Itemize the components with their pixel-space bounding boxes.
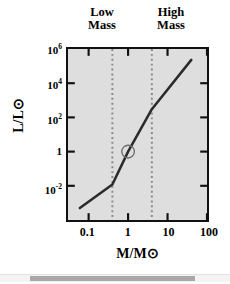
y-tick-label: 1	[24, 146, 62, 157]
plot-area	[66, 47, 209, 222]
plot-graphics	[68, 49, 207, 220]
x-axis-tick-labels: 0.1110100	[0, 226, 230, 246]
x-tick-label: 0.1	[80, 226, 95, 239]
vertical-boundary-lines	[112, 49, 151, 220]
x-tick-label: 1	[125, 226, 131, 239]
horizontal-scrollbar[interactable]	[0, 274, 230, 282]
y-tick-label: 104	[24, 76, 62, 91]
series-mass-luminosity-relation	[80, 60, 191, 208]
annotation-low-mass: Low Mass	[74, 6, 130, 32]
y-tick-label: 10-2	[24, 181, 62, 196]
data-line	[80, 60, 191, 208]
y-tick-label: 102	[24, 111, 62, 126]
annotation-high-mass: High Mass	[140, 6, 202, 32]
mass-luminosity-chart: Low Mass High Mass 106104102110-2 0.1110…	[0, 0, 230, 270]
plot-inner	[68, 49, 207, 220]
scrollbar-thumb[interactable]	[30, 276, 195, 281]
x-tick-label: 100	[200, 226, 218, 239]
y-axis-title: L/L⊙	[11, 86, 26, 146]
x-axis-title: M/M⊙	[66, 246, 209, 261]
y-tick-label: 106	[24, 41, 62, 56]
x-tick-label: 10	[162, 226, 174, 239]
